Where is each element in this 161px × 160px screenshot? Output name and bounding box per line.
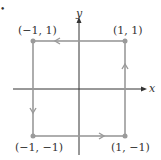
y-axis-label: y xyxy=(76,7,82,20)
vertex-neg1-1 xyxy=(31,39,36,44)
vertex-1-neg1 xyxy=(123,134,128,139)
vertex-label-neg1-neg1: (−1, −1) xyxy=(15,141,63,154)
vertex-1-1 xyxy=(123,39,128,44)
x-axis-label: x xyxy=(149,82,155,95)
vertex-label-1-1: (1, 1) xyxy=(113,24,143,37)
vertex-label-neg1-1: (−1, 1) xyxy=(18,24,57,37)
x-axis-arrow-icon xyxy=(141,87,147,92)
vertex-label-1-neg1: (1, −1) xyxy=(111,141,150,154)
vertex-neg1-neg1 xyxy=(31,134,36,139)
